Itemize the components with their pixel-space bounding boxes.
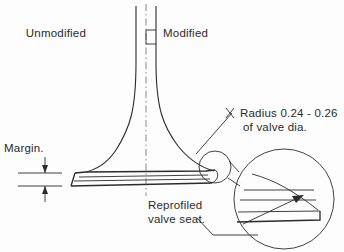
label-reprofiled-line1: Reprofiled (148, 199, 202, 211)
head-bottom-face (71, 183, 212, 186)
seat-right-edge (212, 170, 218, 183)
margin-arrow-top (42, 165, 48, 173)
valve-margin-edge (71, 173, 75, 186)
magnified-seat-detail (234, 149, 334, 249)
magnified-arrow-shaft (243, 197, 300, 224)
label-modified: Modified (163, 27, 208, 39)
reprofiled-leader-line (197, 218, 258, 235)
label-unmodified: Unmodified (26, 27, 86, 39)
seat-taper-line-upper (79, 175, 208, 177)
magnified-seat-outline (237, 211, 320, 222)
label-radius-line1: Radius 0.24 - 0.26 (240, 107, 338, 119)
radius-leader-line (196, 113, 232, 154)
magnified-arrow-head (292, 195, 304, 203)
magnified-line-3 (238, 211, 320, 212)
margin-arrow-bottom (42, 186, 48, 194)
unmodified-fillet-profile (86, 62, 136, 172)
seat-taper-line-lower (74, 179, 210, 181)
label-reprofiled-line2: valve seat. (148, 213, 205, 225)
head-top-face (75, 170, 215, 173)
label-margin: Margin. (4, 142, 44, 154)
valve-engineering-drawing: Unmodified Modified Margin. Radius 0.24 … (0, 0, 344, 252)
label-radius-line2: of valve dia. (243, 121, 307, 133)
